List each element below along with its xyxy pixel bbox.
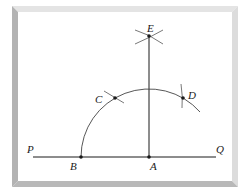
diagram-stage: P Q B A C D E xyxy=(0,0,248,195)
label-c: C xyxy=(95,93,103,105)
label-b: B xyxy=(70,160,77,172)
frame-left-edge xyxy=(12,6,18,187)
point-c xyxy=(113,96,117,100)
frame-top-edge xyxy=(12,6,238,12)
label-q: Q xyxy=(216,143,224,155)
point-b xyxy=(79,155,83,159)
label-p: P xyxy=(26,143,34,155)
label-a: A xyxy=(149,160,157,172)
label-d: D xyxy=(187,89,196,101)
frame-bottom-edge xyxy=(12,181,238,187)
point-e xyxy=(147,34,151,38)
point-a xyxy=(147,155,151,159)
frame xyxy=(12,6,238,187)
frame-right-edge xyxy=(232,6,238,187)
paper xyxy=(18,12,232,181)
construction-diagram: P Q B A C D E xyxy=(0,0,248,195)
point-d xyxy=(181,96,185,100)
label-e: E xyxy=(146,22,154,34)
